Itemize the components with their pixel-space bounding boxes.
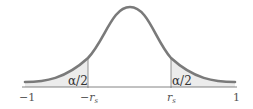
tick-label-neg-rs: −rs [80,92,98,105]
tick-label-neg-one: −1 [19,92,35,103]
tick-label-neg-r: −r [80,91,94,104]
left-tail-label: α/2 [68,75,88,87]
right-tail-label: α/2 [172,75,192,87]
tick-label-pos-one: 1 [233,92,240,103]
tick-label-pos-rs: rs [167,92,176,105]
bell-curve [25,7,235,82]
distribution-diagram [0,0,253,109]
tick-label-neg-r-sub: s [94,97,98,105]
tick-label-pos-r-sub: s [172,97,176,105]
